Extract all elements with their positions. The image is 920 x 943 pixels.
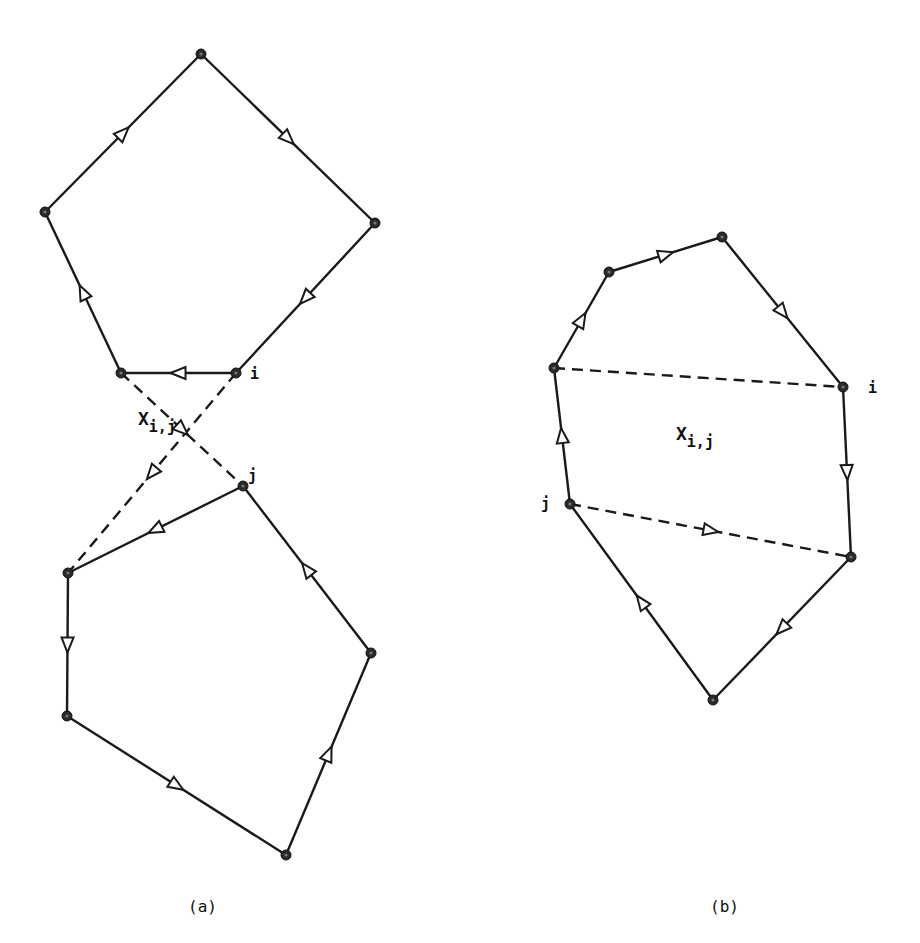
vertex-node-dot: [284, 853, 287, 856]
panel-a-vertex-i-label: i: [250, 365, 259, 383]
vertex-node-dot: [841, 385, 844, 388]
panel-a-edges: [45, 54, 375, 855]
vertex-node-dot: [373, 221, 376, 224]
arrow-icon: [167, 777, 186, 795]
arrow-icon: [74, 283, 91, 302]
arrow-icon: [142, 464, 161, 483]
vertex-node-dot: [241, 484, 244, 487]
panel-a-arrow-icons: [61, 123, 337, 795]
panel-a-polygon-graph: Xi,j i j (a): [40, 49, 380, 916]
panel-a-vertex-j-label: j: [248, 467, 257, 485]
region-label-main: X: [138, 408, 149, 429]
panel-b-region-label: Xi,j: [676, 423, 714, 451]
vertex-node-dot: [568, 502, 571, 505]
vertex-node-dot: [199, 52, 202, 55]
vertex-node-dot: [607, 270, 610, 273]
vertex-node-dot: [849, 555, 852, 558]
panel-b-edges: [554, 237, 851, 700]
panel-b-caption: (b): [710, 897, 739, 916]
vertex-node-dot: [66, 571, 69, 574]
panel-b-labels: Xi,j i j (b): [541, 379, 877, 916]
vertex-node-dot: [43, 210, 46, 213]
region-label-sub: i,j: [149, 418, 176, 436]
vertex-node-dot: [711, 698, 714, 701]
arrow-icon: [320, 744, 337, 762]
arrow-icon: [657, 246, 675, 262]
vertex-node-dot: [234, 371, 237, 374]
arrow-icon: [703, 523, 720, 538]
panel-a-region-label: Xi,j: [138, 408, 176, 436]
panel-a-nodes: [40, 49, 380, 860]
panel-a-labels: Xi,j i j (a): [138, 365, 259, 916]
arrow-icon: [61, 637, 73, 652]
vertex-node-dot: [119, 371, 122, 374]
arrow-icon: [632, 592, 651, 611]
region-label-main: X: [676, 423, 687, 444]
panel-b-polygon-graph: Xi,j i j (b): [541, 232, 877, 916]
arrow-icon: [841, 465, 854, 481]
panel-b-vertex-i-label: i: [868, 379, 877, 397]
panel-b-vertex-j-label: j: [541, 495, 550, 513]
vertex-node-dot: [65, 714, 68, 717]
diagram-canvas: Xi,j i j (a) Xi,j i j (b): [0, 0, 920, 943]
panel-a-caption: (a): [188, 897, 217, 916]
vertex-node-dot: [720, 235, 723, 238]
region-label-sub: i,j: [687, 433, 714, 451]
panel-b-nodes: [549, 232, 856, 705]
edge-p-i-dashed: [554, 368, 843, 387]
vertex-node-dot: [369, 651, 372, 654]
arrow-icon: [146, 521, 165, 538]
arrow-icon: [555, 427, 569, 443]
arrow-icon: [573, 310, 591, 329]
arrow-icon: [171, 367, 186, 379]
vertex-node-dot: [552, 366, 555, 369]
